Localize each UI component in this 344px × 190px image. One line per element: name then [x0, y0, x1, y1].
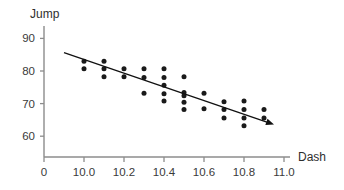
- data-point: [202, 91, 207, 96]
- y-axis-title: Jump: [30, 7, 60, 21]
- x-tick-label: 11.0: [273, 166, 295, 178]
- data-point: [122, 74, 127, 79]
- data-point: [242, 98, 247, 103]
- x-tick-label: 10.8: [233, 166, 255, 178]
- y-tick-label: 70: [22, 98, 35, 110]
- data-point: [222, 99, 227, 104]
- data-point: [202, 106, 207, 111]
- axes-group: [44, 26, 290, 157]
- data-point: [102, 59, 107, 64]
- data-point: [222, 115, 227, 120]
- data-point: [262, 107, 267, 112]
- x-axis-ticks: 010.010.210.410.610.811.0: [41, 157, 295, 178]
- x-tick-label: 10.2: [113, 166, 135, 178]
- scatter-chart: 60708090 010.010.210.410.610.811.0 Jump …: [0, 0, 344, 190]
- x-tick-label: 10.4: [153, 166, 176, 178]
- data-point: [162, 98, 167, 103]
- data-point: [142, 91, 147, 96]
- trend-line: [64, 53, 268, 123]
- y-tick-label: 60: [22, 130, 35, 142]
- data-point: [242, 115, 247, 120]
- y-axis-ticks: 60708090: [22, 32, 44, 142]
- y-tick-label: 80: [22, 65, 35, 77]
- data-point: [182, 100, 187, 105]
- data-point: [242, 123, 247, 128]
- y-tick-label: 90: [22, 32, 35, 44]
- data-point: [82, 66, 87, 71]
- x-tick-label: 10.6: [193, 166, 215, 178]
- data-point: [162, 91, 167, 96]
- data-point: [142, 66, 147, 71]
- data-point: [162, 75, 167, 80]
- data-point: [182, 107, 187, 112]
- x-tick-label: 10.0: [73, 166, 95, 178]
- data-points-group: [82, 59, 267, 129]
- data-point: [182, 74, 187, 79]
- x-tick-label: 0: [41, 166, 47, 178]
- data-point: [262, 115, 267, 120]
- data-point: [122, 66, 127, 71]
- data-point: [102, 74, 107, 79]
- x-axis-title: Dash: [298, 150, 326, 164]
- trend-line-group: [64, 53, 274, 125]
- data-point: [242, 107, 247, 112]
- data-point: [162, 66, 167, 71]
- plot-area: 60708090 010.010.210.410.610.811.0 Jump …: [0, 0, 344, 190]
- trend-arrowhead-icon: [265, 119, 274, 125]
